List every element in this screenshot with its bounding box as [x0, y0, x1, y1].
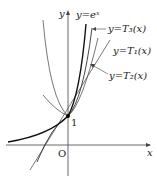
diagram: y x O 1 y=eˣ y=T₃(x) y=T₁(x) y=T₂(x) — [0, 0, 157, 181]
x-axis-label: x — [147, 147, 153, 158]
label-T1: y=T₁(x) — [112, 45, 151, 56]
intercept-point — [66, 114, 70, 118]
leader-T2 — [92, 65, 108, 74]
curve-T2 — [43, 20, 98, 116]
intercept-label: 1 — [71, 117, 77, 128]
origin-label: O — [58, 148, 66, 159]
label-T2: y=T₂(x) — [108, 70, 147, 81]
y-axis-label: y — [58, 8, 65, 19]
arrow-T3-icon — [92, 27, 96, 31]
label-exp: y=eˣ — [75, 9, 100, 20]
y-axis-arrow-icon — [66, 10, 70, 15]
curve-T2-left — [43, 95, 68, 116]
label-T3: y=T₃(x) — [107, 23, 146, 34]
